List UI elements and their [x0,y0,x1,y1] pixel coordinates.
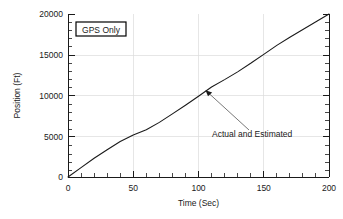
x-axis-title: Time (Sec) [178,198,219,208]
x-tick-label-0: 0 [66,183,71,193]
x-tick-label-100: 100 [191,183,205,193]
y-tick-label-10000: 10000 [39,91,63,101]
annotation-label: Actual and Estimated [212,129,293,139]
chart-figure: 20000 15000 10000 5000 0 0 50 100 150 20… [0,0,343,219]
y-tick-label-20000: 20000 [39,9,63,19]
y-axis-title: Position (Ft) [12,72,22,118]
y-tick-label-0: 0 [58,172,63,182]
y-tick-label-5000: 5000 [44,132,63,142]
x-tick-label-150: 150 [257,183,271,193]
legend-gps-only: GPS Only [76,22,126,36]
x-tick-label-200: 200 [322,183,336,193]
chart-canvas: 20000 15000 10000 5000 0 0 50 100 150 20… [0,0,343,219]
legend-label-gps-only: GPS Only [82,25,121,35]
y-tick-label-15000: 15000 [39,50,63,60]
x-tick-label-50: 50 [129,183,139,193]
